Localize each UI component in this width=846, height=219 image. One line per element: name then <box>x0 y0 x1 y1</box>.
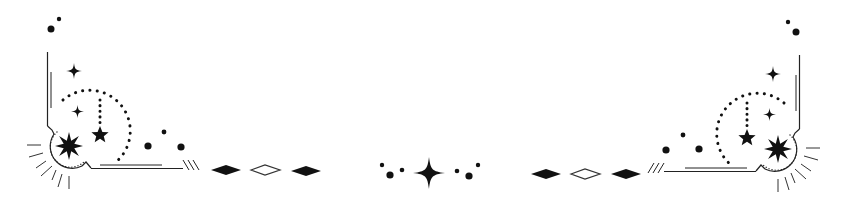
diamond-filled-icon <box>291 166 321 176</box>
right-corner-ornament <box>648 20 820 192</box>
left-diamond-row <box>211 165 321 176</box>
left-corner-ornament <box>27 17 199 189</box>
center-star-group <box>380 157 480 189</box>
right-diamond-row <box>531 169 641 179</box>
star-divider-ornament <box>0 0 846 219</box>
diamond-filled-icon <box>211 165 241 175</box>
ornament-graphic <box>0 0 846 219</box>
diamond-filled-icon <box>531 169 561 179</box>
diamond-outline-icon <box>571 169 600 179</box>
diamond-outline-icon <box>251 165 280 175</box>
diamond-filled-icon <box>611 169 641 179</box>
